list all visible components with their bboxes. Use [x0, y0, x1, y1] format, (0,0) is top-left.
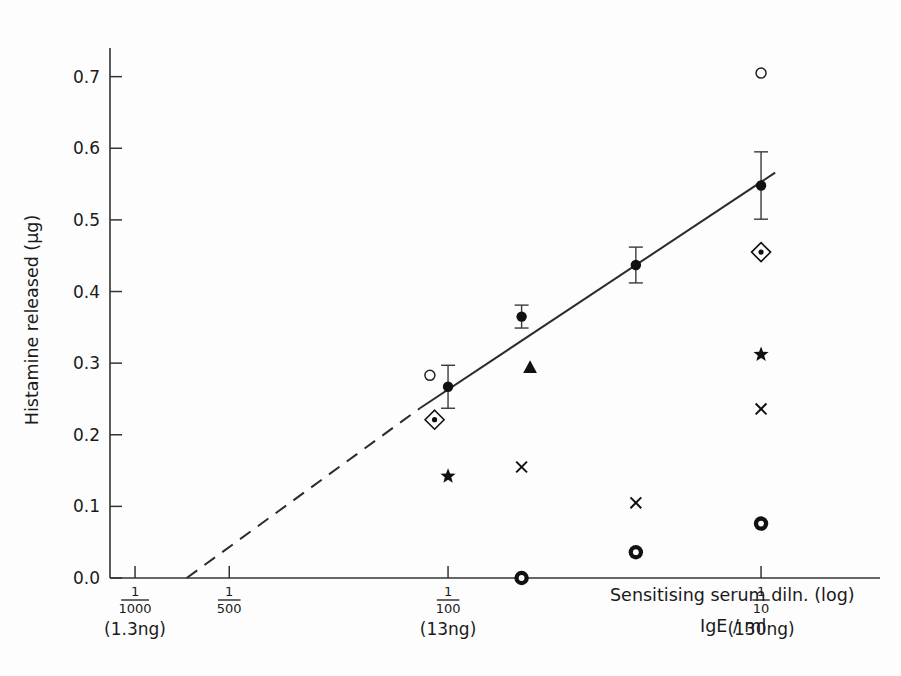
marker-star	[440, 468, 455, 482]
y-tick-label: 0.6	[73, 138, 100, 158]
x-axis-ticks	[135, 566, 761, 578]
marker-bullseye	[514, 571, 528, 585]
marker-open-circle	[425, 370, 435, 380]
x-tick-ng-label: (13ng)	[420, 619, 476, 639]
x-tick-fraction-denominator: 1000	[118, 601, 151, 616]
marker-cross	[756, 404, 767, 415]
marker-bullseye	[629, 545, 643, 559]
regression-line-solid	[420, 173, 775, 409]
regression-line-dashed-extrapolation	[187, 408, 420, 578]
marker-dotted-diamond	[425, 410, 444, 429]
marker-triangle	[523, 360, 537, 373]
x-tick-fraction-numerator: 1	[225, 584, 233, 599]
marker-open-circle	[756, 68, 766, 78]
y-tick-label: 0.7	[73, 67, 100, 87]
y-tick-label: 0.1	[73, 496, 100, 516]
marker-dotted-diamond	[752, 243, 771, 262]
marker-bullseye	[754, 516, 768, 530]
marker-cross	[630, 497, 641, 508]
marker-star	[753, 347, 768, 361]
histamine-release-scatter-chart: 0.00.10.20.30.40.50.60.7 11000(1.3ng)150…	[0, 0, 901, 676]
y-axis-title-text: Histamine released (µg)	[22, 215, 42, 425]
marker-filled-circle	[631, 260, 641, 270]
error-bars-group	[441, 152, 768, 408]
y-tick-label: 0.2	[73, 425, 100, 445]
y-axis-title: Histamine released (µg)	[22, 215, 42, 425]
x-tick-fraction-denominator: 100	[436, 601, 461, 616]
figure-container: 0.00.10.20.30.40.50.60.7 11000(1.3ng)150…	[0, 0, 901, 676]
y-tick-label: 0.4	[73, 282, 100, 302]
x-tick-fraction-numerator: 1	[131, 584, 139, 599]
y-tick-label: 0.5	[73, 210, 100, 230]
data-markers-group	[425, 68, 771, 585]
marker-cross	[516, 462, 527, 473]
chart-axes	[110, 48, 880, 578]
y-axis-ticks	[110, 77, 122, 578]
x-tick-fraction-denominator: 500	[217, 601, 242, 616]
y-tick-label: 0.0	[73, 568, 100, 588]
marker-filled-circle	[443, 382, 453, 392]
marker-filled-circle	[516, 311, 526, 321]
marker-filled-circle	[756, 180, 766, 190]
x-tick-ng-label: (1.3ng)	[104, 619, 166, 639]
x-tick-fraction-numerator: 1	[444, 584, 452, 599]
y-tick-label: 0.3	[73, 353, 100, 373]
y-axis-tick-labels: 0.00.10.20.30.40.50.60.7	[73, 67, 100, 588]
regression-line-group	[187, 173, 775, 578]
x-axis-title-secondary-text: IgE / ml	[700, 616, 766, 636]
x-axis-title-text: Sensitising serum diln. (log)	[610, 585, 855, 605]
